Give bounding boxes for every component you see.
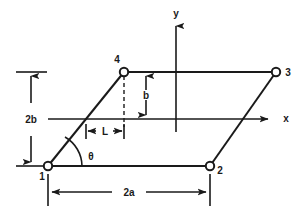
dimension-L-label: L xyxy=(102,126,108,137)
node-4-marker xyxy=(120,68,128,76)
node-3-marker xyxy=(272,68,280,76)
node-2-marker xyxy=(206,162,214,170)
dimension-2b-label: 2b xyxy=(25,114,37,125)
dimension-2a-label: 2a xyxy=(123,187,135,198)
node-2-label: 2 xyxy=(217,165,223,176)
node-3-label: 3 xyxy=(285,67,291,78)
dimension-b-label: b xyxy=(143,90,149,101)
x-axis-label: x xyxy=(283,113,289,124)
figure-canvas: x y 1 2 3 4 θ 2b xyxy=(0,0,306,218)
node-1-label: 1 xyxy=(39,171,45,182)
parallelogram-element-figure: x y 1 2 3 4 θ 2b xyxy=(0,0,306,218)
node-1-marker xyxy=(44,162,52,170)
y-axis-label: y xyxy=(173,8,179,19)
angle-theta-label: θ xyxy=(88,151,93,162)
coordinate-axes xyxy=(48,26,268,132)
node-4-label: 4 xyxy=(114,54,120,65)
